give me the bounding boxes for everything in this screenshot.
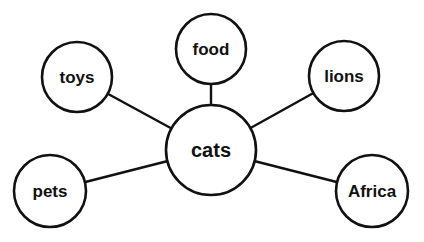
mind-map-diagram: food toys lions pets Africa cats [0,0,424,242]
node-pets: pets [14,155,86,227]
node-cats: cats [166,105,256,195]
node-africa: Africa [336,155,408,227]
node-cats-label: cats [191,139,231,161]
node-lions-label: lions [324,67,364,86]
node-lions: lions [309,41,379,111]
node-toys-label: toys [60,68,95,87]
node-pets-label: pets [33,182,68,201]
node-food: food [176,14,246,84]
node-africa-label: Africa [348,182,397,201]
node-food-label: food [193,40,230,59]
node-toys: toys [42,42,112,112]
